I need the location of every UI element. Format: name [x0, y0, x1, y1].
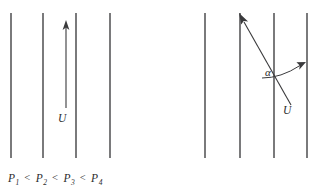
- pressure-flow-figure: U P1 < P2 < P3 < P4: [0, 0, 323, 191]
- pressure-symbol-1: P: [8, 172, 15, 184]
- diagram-panel-right: α U P1 < P2 < P3 < P4: [161, 0, 323, 191]
- angle-label-alpha: α: [265, 66, 271, 78]
- flow-vector-u: [63, 20, 70, 108]
- flow-vector-label-u: U: [58, 112, 66, 124]
- pressure-term-4: P4: [91, 172, 102, 184]
- pressure-term-1: P1: [8, 172, 19, 184]
- diagram-panel-left: U P1 < P2 < P3 < P4: [0, 0, 161, 191]
- pressure-symbol-3: P: [63, 172, 70, 184]
- flow-vector-shaft: [244, 22, 291, 105]
- pressure-term-2: P2: [36, 172, 47, 184]
- right-panel-canvas: [161, 0, 323, 191]
- left-panel-canvas: [0, 0, 161, 191]
- pressure-ordering-caption-left: P1 < P2 < P3 < P4: [8, 168, 102, 188]
- pressure-subscript-4: 4: [99, 178, 103, 187]
- flow-vector-u: [239, 13, 291, 105]
- pressure-symbol-4: P: [91, 172, 98, 184]
- relation-operator-3: <: [74, 172, 91, 183]
- angle-arc-arrowhead: [296, 62, 306, 70]
- pressure-symbol-2: P: [36, 172, 43, 184]
- relation-operator-2: <: [46, 172, 63, 183]
- relation-operator-1: <: [19, 172, 36, 183]
- flow-vector-label-u: U: [283, 104, 291, 116]
- pressure-term-3: P3: [63, 172, 74, 184]
